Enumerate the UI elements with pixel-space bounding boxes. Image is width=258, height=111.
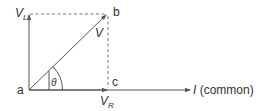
theta-label: θ bbox=[51, 77, 57, 88]
point-c-label: c bbox=[112, 75, 118, 89]
current-axis-label: I (common) bbox=[193, 83, 254, 97]
v-resultant-label: V bbox=[95, 26, 104, 40]
vr-label: VR bbox=[100, 94, 114, 110]
point-a-label: a bbox=[17, 83, 24, 97]
point-b-label: b bbox=[113, 5, 120, 19]
vl-label: VL bbox=[15, 6, 27, 22]
phasor-diagram: VL b V θ a c VR I (common) bbox=[0, 0, 258, 111]
